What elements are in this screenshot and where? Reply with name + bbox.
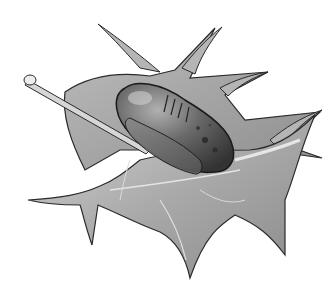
illustration-canvas bbox=[0, 0, 333, 291]
holly-leaf-pupa-illustration bbox=[0, 0, 333, 291]
